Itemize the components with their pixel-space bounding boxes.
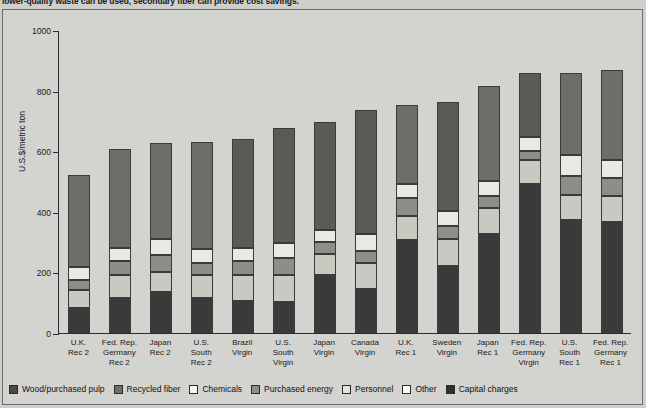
x-axis-label: Fed. Rep. Germany Rec 2 bbox=[99, 338, 140, 368]
bar-segment bbox=[396, 216, 418, 240]
bar-segment bbox=[273, 258, 295, 275]
bar-segment bbox=[109, 300, 131, 333]
x-axis-label: Brazil Virgin bbox=[222, 338, 263, 358]
bar-segment bbox=[437, 226, 459, 238]
bar-segment bbox=[560, 73, 582, 155]
x-axis-label: Fed. Rep. Germany Virgin bbox=[508, 338, 549, 368]
stacked-bar bbox=[191, 142, 213, 333]
bar-segment bbox=[314, 277, 336, 333]
stacked-bar bbox=[355, 110, 377, 333]
x-axis-labels: U.K. Rec 2Fed. Rep. Germany Rec 2Japan R… bbox=[58, 336, 631, 380]
legend-item[interactable]: Purchased energy bbox=[251, 384, 333, 394]
x-axis-label: Sweden Virgin bbox=[426, 338, 467, 358]
bar-segment bbox=[355, 291, 377, 333]
bar-segment bbox=[109, 248, 131, 262]
bar-segment bbox=[519, 137, 541, 151]
bar-segment bbox=[478, 181, 500, 196]
x-axis-label: Canada Virgin bbox=[345, 338, 386, 358]
bar-segment bbox=[191, 142, 213, 250]
bar-segment bbox=[314, 242, 336, 254]
legend-item[interactable]: Personnel bbox=[342, 384, 393, 394]
bar-segment bbox=[150, 239, 172, 256]
legend-label: Other bbox=[415, 384, 436, 394]
bar-group bbox=[59, 31, 631, 333]
bar-segment bbox=[601, 196, 623, 222]
legend-label: Wood/purchased pulp bbox=[22, 384, 105, 394]
figure-frame: U.S.$/metric ton 02004006008001000 U.K. … bbox=[2, 9, 643, 405]
bar-segment bbox=[601, 70, 623, 159]
legend-swatch-icon bbox=[251, 385, 260, 394]
y-axis-tick-label: 800 bbox=[37, 87, 51, 97]
legend-swatch-icon bbox=[189, 385, 198, 394]
legend-swatch-icon bbox=[446, 385, 455, 394]
bar-segment bbox=[396, 242, 418, 333]
bar-segment bbox=[191, 249, 213, 263]
bar-segment bbox=[396, 184, 418, 198]
x-axis-label: Japan Rec 1 bbox=[467, 338, 508, 358]
bar-segment bbox=[396, 105, 418, 184]
bar-segment bbox=[437, 211, 459, 226]
bar-segment bbox=[314, 122, 336, 230]
legend-label: Personnel bbox=[355, 384, 393, 394]
legend-item[interactable]: Wood/purchased pulp bbox=[9, 384, 105, 394]
bar-segment bbox=[68, 280, 90, 291]
bar-segment bbox=[109, 261, 131, 275]
stacked-bar bbox=[150, 143, 172, 333]
legend-item[interactable]: Capital charges bbox=[446, 384, 518, 394]
figure-caption: lower-quality waste can be used, seconda… bbox=[2, 0, 642, 8]
x-axis-label: U.S. South Rec 1 bbox=[549, 338, 590, 368]
stacked-bar bbox=[560, 73, 582, 333]
plot-area: 02004006008001000 bbox=[58, 31, 631, 334]
bar-segment bbox=[191, 300, 213, 333]
stacked-bar bbox=[68, 175, 90, 333]
bar-segment bbox=[478, 236, 500, 333]
stacked-bar bbox=[273, 128, 295, 333]
bar-segment bbox=[601, 160, 623, 178]
y-axis-tick-label: 0 bbox=[46, 329, 51, 339]
bar-segment bbox=[560, 195, 582, 221]
x-axis-label: Japan Virgin bbox=[304, 338, 345, 358]
stacked-bar bbox=[478, 86, 500, 333]
bar-segment bbox=[478, 208, 500, 234]
y-axis-tick-label: 200 bbox=[37, 268, 51, 278]
legend-swatch-icon bbox=[114, 385, 123, 394]
bar-segment bbox=[560, 155, 582, 176]
legend-item[interactable]: Chemicals bbox=[189, 384, 242, 394]
stacked-bar bbox=[519, 73, 541, 333]
legend-item[interactable]: Recycled fiber bbox=[114, 384, 181, 394]
bar-segment bbox=[519, 73, 541, 137]
bar-segment bbox=[232, 139, 254, 248]
x-axis-label: U.S. South Virgin bbox=[263, 338, 304, 368]
bar-segment bbox=[396, 198, 418, 216]
stacked-bar bbox=[314, 122, 336, 333]
bar-segment bbox=[314, 254, 336, 275]
bar-segment bbox=[355, 110, 377, 234]
bar-segment bbox=[191, 275, 213, 298]
bar-segment bbox=[437, 102, 459, 211]
bar-segment bbox=[519, 160, 541, 184]
chart-legend: Wood/purchased pulpRecycled fiberChemica… bbox=[9, 381, 639, 397]
bar-segment bbox=[109, 149, 131, 247]
bar-segment bbox=[232, 248, 254, 262]
bar-segment bbox=[150, 294, 172, 333]
stacked-bar bbox=[601, 70, 623, 333]
y-axis-tick-label: 600 bbox=[37, 147, 51, 157]
bar-segment bbox=[232, 303, 254, 333]
bar-segment bbox=[601, 224, 623, 333]
bar-segment bbox=[273, 128, 295, 243]
bar-segment bbox=[314, 230, 336, 242]
bar-segment bbox=[519, 151, 541, 160]
stacked-bar bbox=[437, 102, 459, 333]
stacked-bar bbox=[232, 139, 254, 333]
bar-segment bbox=[150, 255, 172, 272]
x-axis-label: Japan Rec 2 bbox=[140, 338, 181, 358]
bar-segment bbox=[273, 275, 295, 302]
legend-item[interactable]: Other bbox=[402, 384, 436, 394]
stacked-bar bbox=[396, 105, 418, 333]
bar-segment bbox=[437, 268, 459, 333]
bar-segment bbox=[355, 263, 377, 289]
legend-label: Purchased energy bbox=[264, 384, 333, 394]
legend-label: Capital charges bbox=[459, 384, 518, 394]
bar-segment bbox=[560, 176, 582, 194]
stacked-bar bbox=[109, 149, 131, 333]
